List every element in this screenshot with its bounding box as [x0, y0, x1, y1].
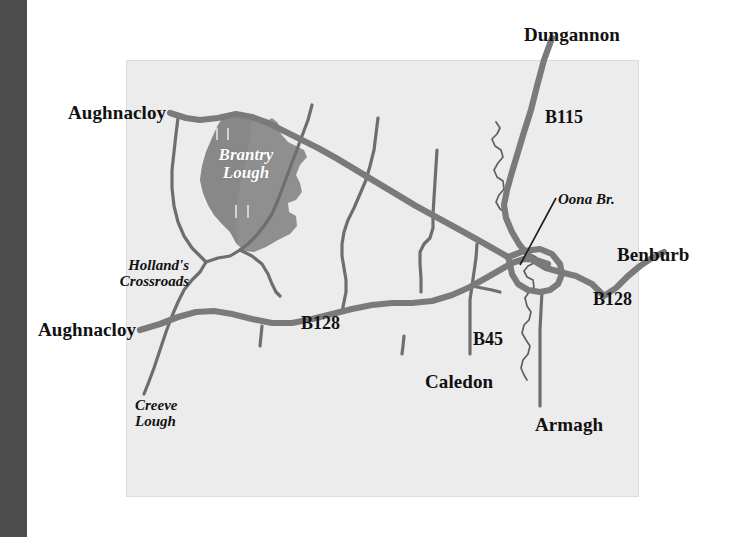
label-caledon: Caledon: [425, 372, 493, 392]
label-road-b128-west: B128: [301, 314, 340, 333]
label-armagh: Armagh: [535, 415, 603, 435]
label-road-b128-east: B128: [593, 290, 632, 309]
label-oona-br: Oona Br.: [558, 192, 615, 208]
roads-minor-segment: [240, 250, 280, 296]
label-aughnacloy-north: Aughnacloy: [68, 103, 166, 123]
label-creeve-lough-line1: Creeve: [135, 398, 177, 414]
label-brantry-lough-line1: Brantry: [198, 146, 294, 164]
roads-minor-segment: [172, 118, 206, 262]
label-aughnacloy-south: Aughnacloy: [38, 320, 136, 340]
map-figure-root: Aughnacloy Dungannon Benburb Aughnacloy …: [0, 0, 736, 537]
label-brantry-lough-line2: Lough: [198, 164, 294, 182]
roads-minor-segment: [402, 336, 404, 354]
label-hollands-crossroads-line2: Crossroads: [97, 274, 189, 290]
roads-minor-segment: [540, 292, 542, 406]
roads-minor-segment: [206, 250, 240, 262]
label-road-b115: B115: [545, 108, 583, 127]
label-benburb: Benburb: [617, 245, 690, 265]
label-brantry-lough: Brantry Lough: [198, 146, 294, 182]
roads-minor-segment: [260, 326, 262, 346]
label-hollands-crossroads-line1: Holland's: [97, 258, 189, 274]
roads-minor-segment: [342, 118, 378, 312]
label-road-b45: B45: [473, 330, 503, 349]
label-dungannon: Dungannon: [524, 25, 620, 45]
label-hollands-crossroads: Holland's Crossroads: [97, 258, 189, 290]
label-creeve-lough-line2: Lough: [135, 414, 177, 430]
label-creeve-lough: Creeve Lough: [135, 398, 177, 430]
stream-group-segment: [521, 298, 531, 380]
roads-minor-segment: [420, 150, 437, 292]
